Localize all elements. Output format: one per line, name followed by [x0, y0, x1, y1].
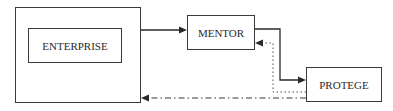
edge-protege-to-enterprise — [141, 95, 306, 102]
arrowhead-icon — [255, 40, 263, 47]
arrowhead-icon — [298, 77, 306, 84]
arrowhead-icon — [179, 27, 187, 34]
edge-mentor-to-protege — [255, 29, 306, 84]
arrowhead-icon — [141, 95, 149, 102]
connectors — [0, 0, 393, 111]
edge-enterprise-to-mentor — [141, 27, 187, 34]
